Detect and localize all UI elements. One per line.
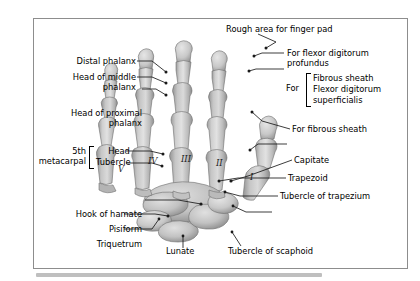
numeral-two: II (216, 158, 223, 168)
label-fifth-metacarpal-line1: 5th (28, 146, 86, 156)
bracket-for-group (306, 73, 311, 107)
label-for-flexor-digitorum-profundus-line2: profundus (287, 58, 411, 68)
label-tubercle-of-scaphoid: Tubercle of scaphoid (228, 246, 356, 256)
label-triquetrum: Triquetrum (50, 239, 142, 249)
numeral-one: I (250, 172, 253, 182)
label-superficialis: superficialis (313, 95, 413, 105)
label-for: For (286, 83, 306, 93)
label-head-of-middle-phalanx-line2: phalanx (34, 82, 136, 92)
label-head: Head (96, 146, 142, 156)
label-pisiform: Pisiform (60, 224, 142, 234)
label-capitate: Capitate (294, 155, 364, 165)
label-fifth-metacarpal-line2: metacarpal (18, 156, 86, 166)
label-trapezoid: Trapezoid (288, 173, 358, 183)
bracket-fifth-metacarpal (89, 146, 94, 169)
label-fibrous-sheath: Fibrous sheath (313, 73, 413, 83)
label-lunate: Lunate (166, 246, 224, 256)
digit-three-bones (170, 41, 193, 193)
carpal-bones (137, 182, 239, 242)
label-flexor-digitorum: Flexor digitorum (313, 84, 413, 94)
digit-two-bones (206, 51, 227, 192)
label-hook-of-hamate: Hook of hamate (40, 209, 142, 219)
figure-canvas: Distal phalanx Head of middle phalanx He… (0, 0, 420, 281)
label-for-fibrous-sheath: For fibrous sheath (292, 124, 404, 134)
label-head-of-middle-phalanx-line1: Head of middle (34, 72, 136, 82)
numeral-five: V (118, 164, 124, 174)
label-head-of-proximal-phalanx-line2: phalanx (28, 118, 142, 128)
numeral-four: IV (148, 156, 158, 166)
label-tubercle-of-trapezium: Tubercle of trapezium (280, 191, 406, 201)
numeral-three: III (181, 154, 191, 164)
label-rough-area-for-finger-pad: Rough area for finger pad (226, 24, 376, 34)
label-head-of-proximal-phalanx-line1: Head of proximal (28, 108, 142, 118)
label-distal-phalanx: Distal phalanx (44, 56, 136, 66)
label-for-flexor-digitorum-profundus-line1: For flexor digitorum (287, 48, 411, 58)
digit-one-thumb-bones (243, 116, 277, 200)
